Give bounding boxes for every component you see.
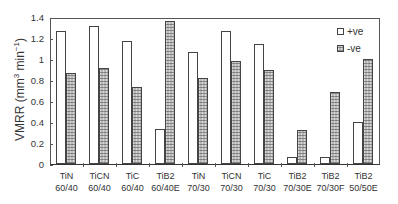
- bar-negative: [297, 130, 307, 164]
- x-tick-mark: [248, 163, 249, 167]
- bar-negative: [231, 61, 241, 164]
- legend-item: -ve: [337, 43, 361, 54]
- bar-negative: [66, 73, 76, 164]
- x-tick-mark: [215, 163, 216, 167]
- legend-label: -ve: [347, 43, 361, 54]
- bar-positive: [89, 26, 99, 164]
- bar-negative: [330, 92, 340, 164]
- y-axis-label: VMRR (mm3 min−1): [12, 25, 27, 155]
- bar-positive: [122, 41, 132, 164]
- y-tick-mark: [50, 165, 53, 166]
- y-tick-label: 0: [14, 159, 44, 170]
- bar-positive: [221, 31, 231, 164]
- x-tick-mark: [347, 163, 348, 167]
- bar-negative: [363, 59, 373, 164]
- y-tick-label: 0.8: [14, 75, 44, 86]
- bar-negative: [198, 78, 208, 164]
- x-tick-mark: [281, 163, 282, 167]
- x-tick-mark: [314, 163, 315, 167]
- y-tick-label: 1: [14, 54, 44, 65]
- bar-negative: [99, 68, 109, 164]
- y-tick-label: 0.6: [14, 96, 44, 107]
- legend-label: +ve: [347, 26, 363, 37]
- bar-positive: [353, 122, 363, 164]
- bar-positive: [56, 31, 66, 164]
- plot-area: [50, 18, 380, 165]
- legend-swatch: [337, 28, 344, 35]
- y-tick-label: 0.4: [14, 117, 44, 128]
- bar-positive: [287, 157, 297, 164]
- bar-positive: [320, 157, 330, 164]
- legend-item: +ve: [337, 26, 363, 37]
- x-tick-mark: [83, 163, 84, 167]
- bar-positive: [155, 129, 165, 164]
- bar-positive: [254, 44, 264, 164]
- y-tick-label: 1.4: [14, 12, 44, 23]
- x-tick-mark: [149, 163, 150, 167]
- x-tick-mark: [116, 163, 117, 167]
- bar-positive: [188, 52, 198, 164]
- bar-negative: [165, 21, 175, 164]
- y-tick-label: 1.2: [14, 33, 44, 44]
- x-tick-mark: [182, 163, 183, 167]
- bar-negative: [264, 70, 274, 165]
- y-tick-label: 0.2: [14, 138, 44, 149]
- legend-swatch: [337, 45, 344, 52]
- bar-negative: [132, 87, 142, 164]
- x-tick-label: TiB250/50E: [344, 170, 384, 194]
